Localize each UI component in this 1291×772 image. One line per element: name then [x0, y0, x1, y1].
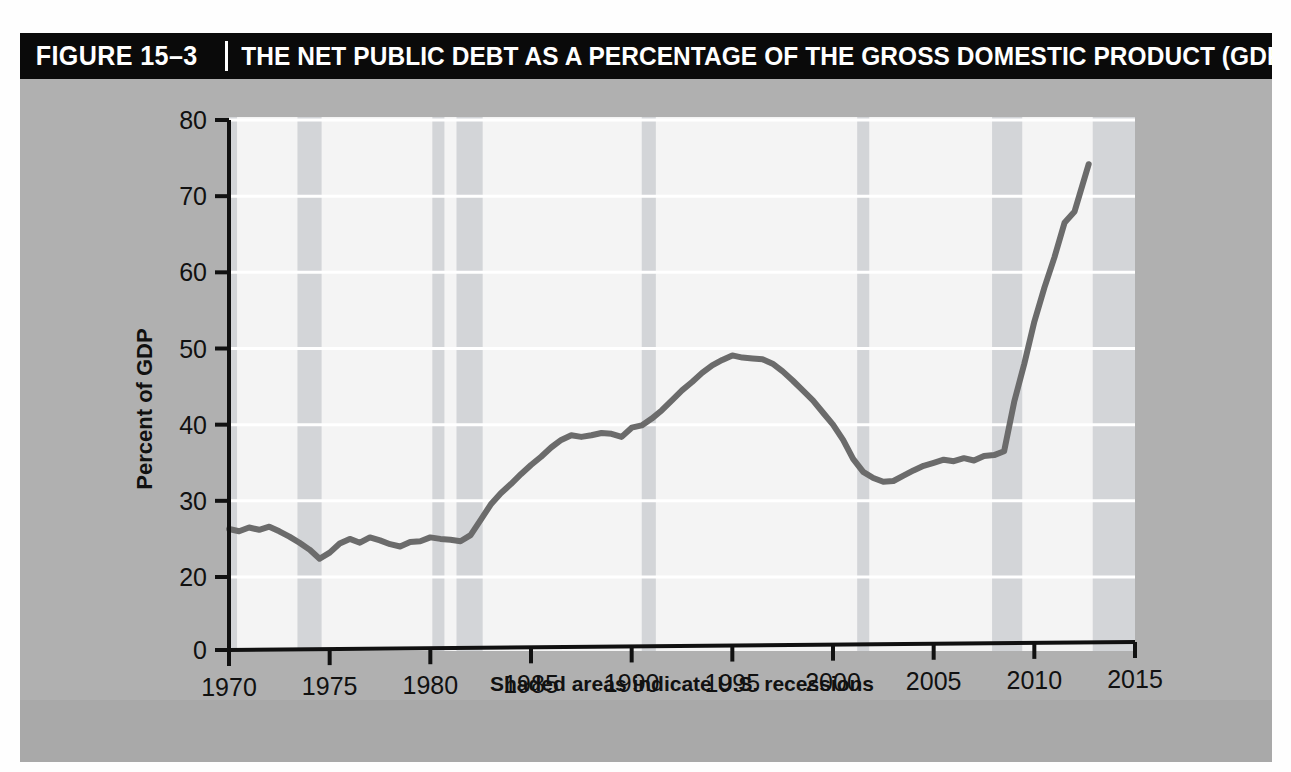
x-axis-tick-label: 1975: [302, 672, 358, 700]
figure-number: FIGURE 15–3: [20, 41, 211, 72]
y-axis-tick-label: 20: [179, 563, 207, 591]
y-axis-title: Percent of GDP: [132, 328, 157, 489]
y-axis-tick-label: 30: [179, 487, 207, 515]
y-axis-tick-label: 60: [179, 258, 207, 286]
debt-to-gdp-line-chart: 020304050607080 197019751980198519901995…: [20, 79, 1272, 700]
x-axis-tick-label: 2005: [906, 667, 962, 695]
figure-container: FIGURE 15–3 THE NET PUBLIC DEBT AS A PER…: [0, 0, 1291, 772]
x-axis-tick-label: 1980: [403, 671, 459, 699]
figure-title-bar: FIGURE 15–3 THE NET PUBLIC DEBT AS A PER…: [20, 33, 1272, 79]
y-axis-tick-label: 40: [179, 411, 207, 439]
y-axis-tick-label: 0: [193, 636, 207, 664]
y-axis-tick-label: 50: [179, 335, 207, 363]
x-axis-tick-label: 1970: [201, 673, 257, 700]
figure-panel-footer-shade: [20, 700, 1272, 762]
y-axis: 020304050607080: [179, 106, 229, 664]
chart-caption: Shaded areas indicate U.S. recessions: [490, 672, 874, 695]
x-axis-tick-label: 2015: [1107, 665, 1163, 693]
chart-area: 020304050607080 197019751980198519901995…: [20, 79, 1272, 700]
y-axis-tick-label: 70: [179, 182, 207, 210]
figure-title: THE NET PUBLIC DEBT AS A PERCENTAGE OF T…: [228, 41, 1272, 72]
y-axis-tick-label: 80: [179, 106, 207, 134]
x-axis-tick-label: 2010: [1007, 666, 1063, 694]
